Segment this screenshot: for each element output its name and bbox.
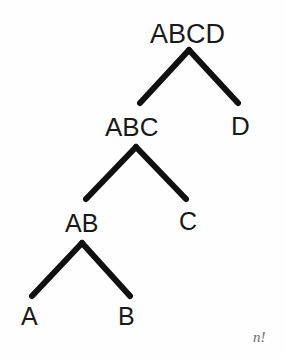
tree-node-ab: AB: [65, 211, 98, 236]
tree-edge-ab-to-b: [82, 243, 130, 296]
tree-edge-abcd-to-d: [189, 50, 238, 103]
tree-node-b: B: [118, 304, 135, 329]
tree-edge-abc-to-c: [136, 147, 186, 199]
figure-annotation: n!: [253, 330, 266, 345]
tree-diagram-figure: ABCDABCDABCAB n!: [0, 0, 285, 358]
tree-edge-ab-to-a: [32, 243, 82, 296]
tree-node-d: D: [231, 113, 250, 139]
tree-edges-layer: [0, 0, 285, 358]
tree-node-c: C: [179, 209, 197, 234]
tree-edge-abc-to-ab: [86, 147, 136, 199]
tree-edge-abcd-to-abc: [140, 50, 189, 103]
tree-node-abc: ABC: [105, 114, 158, 140]
tree-node-abcd: ABCD: [150, 21, 225, 48]
tree-node-a: A: [21, 304, 38, 329]
